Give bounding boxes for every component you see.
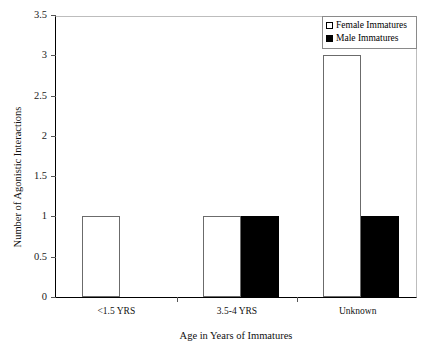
bar-male: [241, 216, 279, 297]
legend-label-female: Female Immatures: [336, 19, 407, 32]
filled-square-swatch-icon: [326, 35, 333, 42]
y-axis-tick-label: 3.5: [34, 10, 47, 21]
y-axis-tick-mark: [51, 15, 56, 16]
y-axis-tick-label: 3: [42, 50, 47, 61]
y-axis-tick-label: 2: [42, 130, 47, 141]
y-axis-tick-label: 0.5: [34, 251, 47, 262]
y-axis-tick-mark: [51, 297, 56, 298]
y-axis-tick-label: 1.5: [34, 171, 47, 182]
y-axis-tick-label: 0: [42, 292, 47, 303]
x-axis-category-label: 3.5-4 YRS: [217, 307, 257, 317]
x-axis-category-label: <1.5 YRS: [97, 307, 135, 317]
bar-male: [361, 216, 399, 297]
bar-female: [323, 55, 361, 297]
y-axis-tick-mark: [51, 257, 56, 258]
y-axis-tick-mark: [51, 55, 56, 56]
x-axis-category-label: Unknown: [339, 307, 376, 317]
plot-area: 00.511.522.533.5 <1.5 YRS3.5-4 YRSUnknow…: [55, 16, 417, 298]
y-axis-tick-mark: [51, 176, 56, 177]
bar-female: [82, 216, 120, 297]
y-axis-tick-label: 1: [42, 211, 47, 222]
y-axis-title: Number of Agonistic Interactions: [12, 47, 23, 307]
legend-item-female: Female Immatures: [326, 19, 413, 32]
open-square-swatch-icon: [326, 22, 333, 29]
bar-female: [203, 216, 241, 297]
x-axis-separator-tick: [177, 297, 178, 302]
y-axis-tick-mark: [51, 136, 56, 137]
x-axis-title: Age in Years of Immatures: [55, 330, 417, 341]
x-axis-separator-tick: [297, 297, 298, 302]
y-axis-tick-mark: [51, 96, 56, 97]
agonistic-interactions-bar-chart: 00.511.522.533.5 <1.5 YRS3.5-4 YRSUnknow…: [0, 0, 429, 354]
y-axis-tick-label: 2.5: [34, 90, 47, 101]
y-axis-tick-mark: [51, 216, 56, 217]
legend-label-male: Male Immatures: [336, 32, 399, 45]
legend-item-male: Male Immatures: [326, 32, 413, 45]
chart-legend: Female Immatures Male Immatures: [322, 16, 417, 49]
